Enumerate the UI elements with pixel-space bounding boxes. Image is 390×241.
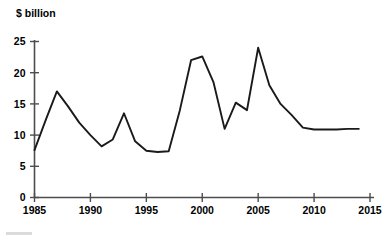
line-chart-plot: $ billion 0510152025 1985199019952000200… [0, 0, 390, 241]
x-axis-ticks: 1985199019952000200520102015 [23, 193, 382, 216]
x-tick-label: 2015 [358, 204, 382, 216]
y-tick-label: 5 [20, 160, 26, 172]
x-tick-label: 1990 [79, 204, 103, 216]
caption-fragment [6, 232, 32, 235]
y-tick-label: 0 [20, 191, 26, 203]
data-series-line [35, 48, 359, 152]
x-tick-label: 2005 [246, 204, 270, 216]
y-tick-label: 25 [14, 35, 26, 47]
x-tick-label: 1985 [23, 204, 47, 216]
x-tick-label: 1995 [135, 204, 159, 216]
chart-container: $ billion 0510152025 1985199019952000200… [0, 0, 390, 241]
y-tick-label: 20 [14, 67, 26, 79]
x-tick-label: 2010 [302, 204, 326, 216]
y-axis-title: $ billion [16, 7, 56, 19]
x-tick-label: 2000 [191, 204, 215, 216]
y-tick-label: 10 [14, 129, 26, 141]
y-tick-label: 15 [14, 98, 26, 110]
